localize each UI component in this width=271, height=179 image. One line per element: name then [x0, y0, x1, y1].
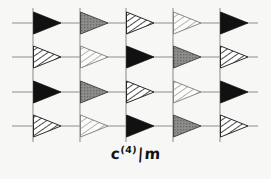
arrow-r3-c2 [81, 81, 109, 103]
arrow-r2-c2 [81, 46, 109, 68]
arrow-r4-c2 [81, 115, 109, 137]
arrow-r2-c4 [174, 46, 202, 68]
arrow-r3-c5 [221, 81, 249, 103]
figure-container: c(4)|m [0, 0, 271, 179]
arrow-r3-c1 [34, 81, 62, 103]
arrow-r2-c1 [34, 46, 62, 68]
arrow-r2-c5 [221, 46, 249, 68]
horizontal-grid-lines [12, 23, 258, 126]
arrow-r1-c5 [221, 12, 249, 34]
arrow-r1-c4 [174, 12, 202, 34]
arrow-r1-c1 [34, 12, 62, 34]
arrow-r3-c3 [127, 81, 155, 103]
arrow-r4-c4 [174, 115, 202, 137]
arrow-r4-c3 [127, 115, 155, 137]
arrow-r3-c4 [174, 81, 202, 103]
lattice-diagram [0, 0, 271, 179]
arrow-r2-c3 [127, 46, 155, 68]
arrow-r1-c2 [81, 12, 109, 34]
arrow-r4-c1 [34, 115, 62, 137]
arrow-layer [34, 12, 249, 137]
arrow-r1-c3 [127, 12, 155, 34]
arrow-r4-c5 [221, 115, 249, 137]
